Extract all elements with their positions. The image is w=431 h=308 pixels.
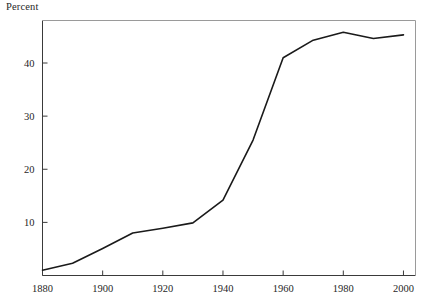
x-tick-label: 1960 <box>273 283 294 294</box>
data-series-group <box>43 32 404 270</box>
x-tick-label: 1880 <box>32 283 53 294</box>
x-tick-group: 1880190019201940196019802000 <box>32 271 414 294</box>
x-tick-label: 1900 <box>92 283 113 294</box>
axes-group <box>43 21 416 276</box>
y-tick-label: 40 <box>24 58 35 69</box>
x-tick-label: 2000 <box>393 283 414 294</box>
chart-container: Percent 10203040 18801900192019401960198… <box>0 0 431 308</box>
y-tick-label: 10 <box>24 217 35 228</box>
x-tick-label: 1920 <box>152 283 173 294</box>
series-line <box>43 32 404 270</box>
x-tick-label: 1940 <box>212 283 233 294</box>
y-tick-label: 20 <box>24 164 35 175</box>
x-tick-label: 1980 <box>333 283 354 294</box>
y-tick-group: 10203040 <box>24 58 48 228</box>
y-tick-label: 30 <box>24 111 35 122</box>
line-chart-plot: 10203040 1880190019201940196019802000 <box>0 0 431 308</box>
